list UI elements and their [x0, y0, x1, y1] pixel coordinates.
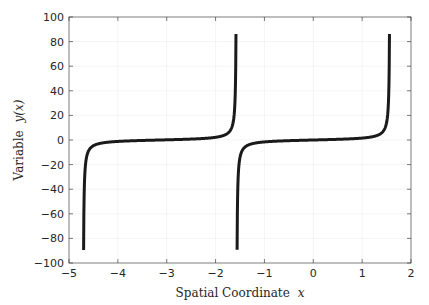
- x-tick-label: 2: [408, 267, 415, 280]
- y-tick-label: 20: [50, 109, 64, 122]
- x-axis-label-math: x: [298, 286, 305, 300]
- y-tick-label: −100: [34, 257, 64, 270]
- x-tick-label: −2: [207, 267, 223, 280]
- y-tick-label: 80: [50, 36, 64, 49]
- y-tick-label: −80: [41, 232, 64, 245]
- y-tick-label: −40: [41, 183, 64, 196]
- y-tick-label: −60: [41, 208, 64, 221]
- x-axis-label-text: Spatial Coordinate: [176, 286, 290, 300]
- y-tick-label: 60: [50, 60, 64, 73]
- x-tick-label: −3: [159, 267, 175, 280]
- y-axis-label-text: Variable: [12, 130, 26, 181]
- chart: −5−4−3−2−1012 −100−80−60−40−200204060801…: [0, 0, 429, 305]
- x-axis-label: Spatial Coordinate x: [176, 286, 305, 300]
- y-tick-label: 40: [50, 85, 64, 98]
- x-tick-label: 1: [359, 267, 366, 280]
- y-tick-label: −20: [41, 159, 64, 172]
- x-tick-label: −4: [110, 267, 126, 280]
- plot-area: [69, 17, 411, 263]
- y-axis-label-math: y(x): [12, 99, 26, 123]
- x-tick-label: 0: [310, 267, 317, 280]
- y-tick-label: 100: [43, 11, 64, 24]
- x-tick-label: −1: [256, 267, 272, 280]
- y-axis-label: Variable y(x): [12, 99, 26, 181]
- y-tick-label: 0: [57, 134, 64, 147]
